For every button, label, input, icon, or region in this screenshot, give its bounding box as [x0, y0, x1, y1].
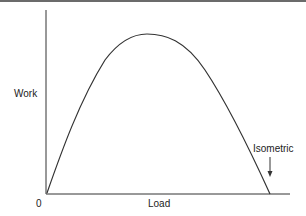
isometric-arrow-head — [268, 171, 273, 177]
origin-label: 0 — [36, 199, 42, 209]
x-axis-label: Load — [148, 199, 170, 209]
work-curve — [47, 34, 270, 194]
isometric-annotation: Isometric — [253, 144, 294, 154]
work-load-chart — [0, 0, 306, 216]
y-axis-label: Work — [14, 89, 37, 99]
